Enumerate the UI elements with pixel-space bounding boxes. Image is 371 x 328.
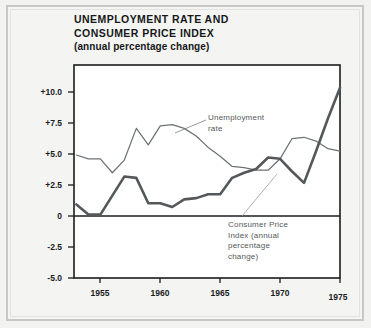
y-axis-ticks [68,92,74,278]
figure-root: UNEMPLOYMENT RATE AND CONSUMER PRICE IND… [0,0,371,328]
y-tick-label-0: 0 [26,211,62,221]
annotation-cpi-line-2: Index (annual [228,231,288,242]
annotation-unemployment-line-2: rate [208,124,264,135]
x-tick-label-1955: 1955 [80,288,120,298]
annotation-cpi-line-3: percentage [228,241,288,252]
x-tick-label-1970: 1970 [260,288,300,298]
x-tick-label-1965: 1965 [200,288,240,298]
annotation-cpi-line-4: change) [228,252,288,263]
x-tick-label-1975: 1975 [318,292,358,302]
annotation-consumer-price-index: Consumer Price Index (annual percentage … [228,220,288,262]
y-tick-label-neg-5: -5.0 [26,273,62,283]
y-tick-label-neg-2-5: -2.5 [26,242,62,252]
y-tick-label-10: +10.0 [26,87,62,97]
annotation-cpi-line-1: Consumer Price [228,220,288,231]
annotation-unemployment-rate: Unemployment rate [208,113,264,134]
y-tick-label-7-5: +7.5 [26,118,62,128]
y-tick-label-5: +5.0 [26,149,62,159]
x-tick-label-1960: 1960 [140,288,180,298]
annotation-unemployment-line-1: Unemployment [208,113,264,124]
y-tick-label-2-5: +2.5 [26,180,62,190]
